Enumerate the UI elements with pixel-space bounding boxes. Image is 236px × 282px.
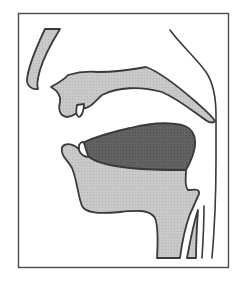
vocal-tract-svg [0, 0, 236, 282]
vocal-tract-diagram [0, 0, 236, 282]
